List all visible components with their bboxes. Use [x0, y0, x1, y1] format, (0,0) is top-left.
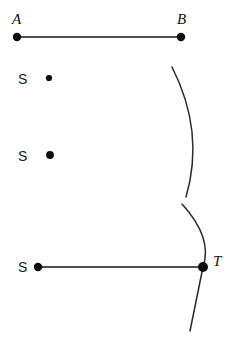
label-t: T: [213, 253, 223, 269]
point-s-top: [46, 75, 52, 81]
geometry-figure: A B S S S T: [0, 0, 243, 346]
point-s-middle: [46, 151, 54, 159]
label-s-bottom: S: [18, 259, 27, 275]
label-s-middle: S: [18, 148, 27, 164]
point-s-bottom: [34, 263, 42, 271]
point-b: [177, 33, 185, 41]
point-t: [198, 262, 208, 272]
point-a: [13, 33, 21, 41]
upper-arc: [172, 67, 193, 197]
label-a: A: [11, 11, 22, 27]
label-s-top: S: [18, 71, 27, 87]
label-b: B: [177, 11, 186, 27]
figure-canvas: A B S S S T: [0, 0, 243, 346]
